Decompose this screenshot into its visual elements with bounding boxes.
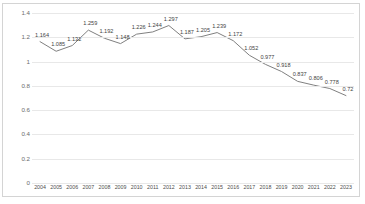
gridline (32, 134, 354, 135)
data-point-label: 1.164 (35, 33, 49, 39)
data-point-label: 0.806 (309, 77, 323, 83)
x-axis-tick-label: 2023 (340, 185, 352, 190)
gridline (32, 86, 354, 87)
data-point-label: 0.778 (325, 80, 339, 86)
x-axis-tick-label: 2020 (292, 185, 304, 190)
data-point-label: 1.052 (244, 47, 258, 53)
x-axis-tick-label: 2004 (34, 185, 46, 190)
data-point-label: 1.259 (83, 22, 97, 28)
y-axis-tick-label: 1 (4, 58, 30, 64)
x-axis-tick-label: 2010 (131, 185, 143, 190)
data-point-label: 1.192 (99, 30, 113, 36)
x-axis-tick-label: 2022 (324, 185, 336, 190)
y-axis: 00.20.40.60.811.21.4 (3, 13, 30, 183)
x-axis-tick-label: 2008 (99, 185, 111, 190)
chart-frame: 00.20.40.60.811.21.4 1.1641.0851.1321.25… (2, 3, 360, 197)
x-axis-tick-label: 2012 (163, 185, 175, 190)
data-point-label: 0.918 (277, 63, 291, 69)
gridline (32, 183, 354, 184)
y-axis-tick-label: 0.6 (4, 107, 30, 113)
data-point-label: 1.226 (132, 26, 146, 32)
x-axis-tick-label: 2014 (195, 185, 207, 190)
x-axis-tick-label: 2013 (179, 185, 191, 190)
data-point-label: 1.132 (67, 37, 81, 43)
y-axis-tick-label: 1.2 (4, 34, 30, 40)
gridline (32, 62, 354, 63)
gridline (32, 13, 354, 14)
gridline (32, 159, 354, 160)
x-axis: 2004200520062007200820092010201120122013… (32, 185, 354, 197)
gridline (32, 110, 354, 111)
y-axis-tick-label: 0.4 (4, 131, 30, 137)
y-axis-tick-label: 0 (4, 180, 30, 186)
data-point-label: 0.977 (260, 56, 274, 62)
x-axis-tick-label: 2009 (115, 185, 127, 190)
y-axis-tick-label: 0.8 (4, 83, 30, 89)
data-point-label: 1.239 (212, 24, 226, 30)
x-axis-tick-label: 2021 (308, 185, 320, 190)
x-axis-tick-label: 2015 (211, 185, 223, 190)
data-point-label: 1.187 (180, 30, 194, 36)
x-axis-tick-label: 2007 (82, 185, 94, 190)
x-axis-tick-label: 2016 (227, 185, 239, 190)
data-point-label: 0.72 (342, 87, 353, 93)
x-axis-tick-label: 2011 (147, 185, 158, 190)
x-axis-tick-label: 2018 (260, 185, 272, 190)
data-point-label: 0.837 (293, 73, 307, 79)
x-axis-tick-label: 2019 (276, 185, 288, 190)
data-point-label: 1.148 (116, 35, 130, 41)
plot-area: 1.1641.0851.1321.2591.1921.1481.2261.244… (32, 13, 354, 183)
data-point-label: 1.172 (228, 32, 242, 38)
x-axis-tick-label: 2017 (243, 185, 255, 190)
y-axis-tick-label: 0.2 (4, 156, 30, 162)
data-point-label: 1.297 (164, 17, 178, 23)
data-point-label: 1.244 (148, 23, 162, 29)
x-axis-tick-label: 2005 (50, 185, 62, 190)
data-point-label: 1.205 (196, 28, 210, 34)
y-axis-tick-label: 1.4 (4, 10, 30, 16)
x-axis-tick-label: 2006 (66, 185, 78, 190)
data-point-label: 1.085 (51, 43, 65, 49)
